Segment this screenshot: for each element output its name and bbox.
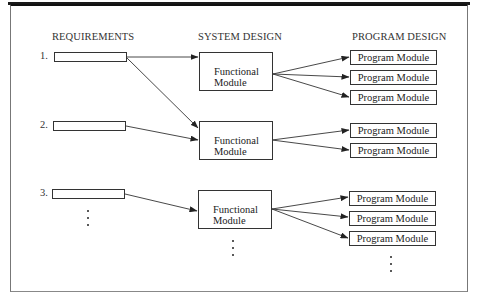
program-module-7: Program Module <box>349 211 436 226</box>
functional-module-2: Functional Module <box>199 121 273 160</box>
program-module-3: Program Module <box>350 90 437 105</box>
functional-module-1: Functional Module <box>199 52 273 91</box>
functional-module-2-line1: Functional <box>214 135 272 146</box>
functional-module-2-line2: Module <box>214 146 272 157</box>
requirement-number-2: 2. <box>40 119 48 130</box>
functional-continuation-ellipsis <box>232 240 236 261</box>
functional-module-1-line2: Module <box>214 77 272 88</box>
program-module-6: Program Module <box>349 191 436 206</box>
requirement-number-1: 1. <box>40 50 48 61</box>
functional-module-3-line1: Functional <box>213 204 271 215</box>
requirement-box-3 <box>52 189 125 199</box>
program-module-8: Program Module <box>349 231 436 246</box>
requirement-box-2 <box>53 121 126 131</box>
requirement-number-3: 3. <box>40 187 48 198</box>
program-module-5: Program Module <box>350 143 437 158</box>
functional-module-3-line2: Module <box>213 215 271 226</box>
requirement-box-1 <box>54 52 127 62</box>
functional-module-3: Functional Module <box>198 190 272 229</box>
program-module-2: Program Module <box>350 70 437 85</box>
program-module-4: Program Module <box>350 123 437 138</box>
program-continuation-ellipsis <box>390 256 394 277</box>
program-module-1: Program Module <box>350 50 437 65</box>
requirements-continuation-ellipsis <box>87 210 91 231</box>
functional-module-1-line1: Functional <box>214 66 272 77</box>
